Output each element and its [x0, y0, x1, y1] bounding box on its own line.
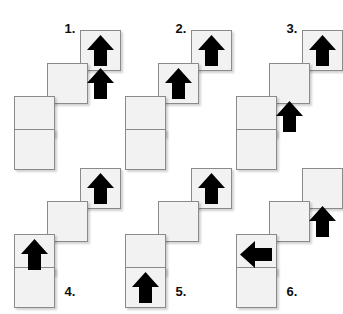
figure-4 — [14, 168, 114, 284]
figure-3 — [236, 30, 336, 146]
figure-4-tile-step4-bottom — [14, 267, 55, 308]
figure-2-tile-step4-bottom — [125, 129, 166, 170]
figure-3-tile-step4-bottom — [236, 129, 277, 170]
figure-4-label: 4. — [58, 285, 82, 299]
figure-2 — [125, 30, 225, 146]
figure-5-label: 5. — [169, 285, 193, 299]
figure-3-label: 3. — [280, 22, 304, 36]
figure-1 — [14, 30, 114, 146]
figure-6-tile-step4-bottom — [236, 267, 277, 308]
figure-2-label: 2. — [169, 22, 193, 36]
figure-1-label: 1. — [58, 22, 82, 36]
figure-6-label: 6. — [280, 285, 304, 299]
figure-6 — [236, 168, 336, 284]
figure-5-tile-step4-bottom — [125, 267, 166, 308]
figure-5 — [125, 168, 225, 284]
figure-1-tile-step4-bottom — [14, 129, 55, 170]
